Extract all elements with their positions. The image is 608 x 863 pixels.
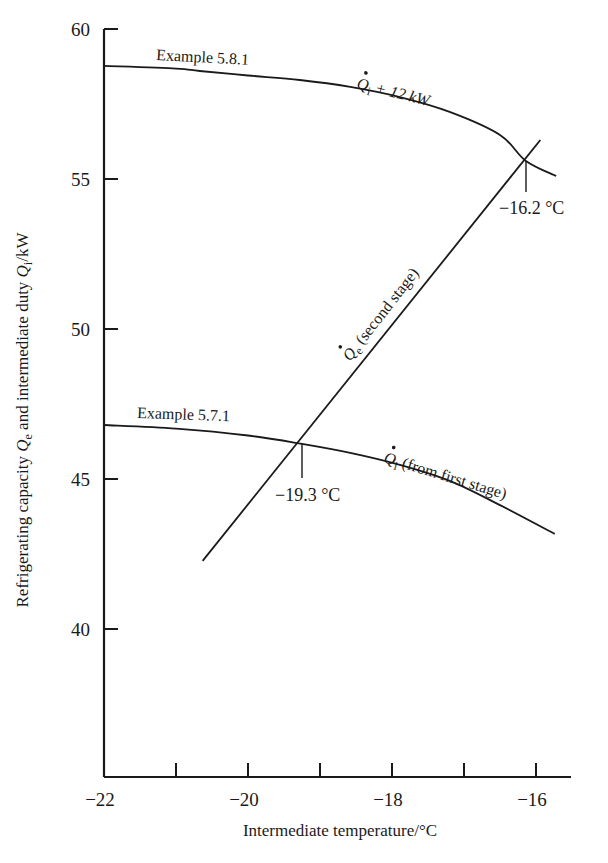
y-ticks (104, 29, 118, 629)
series-upper-curve (104, 66, 556, 176)
example-upper-label: Example 5.8.1 (156, 46, 250, 69)
x-tick-label: −22 (85, 789, 115, 810)
y-tick-labels: 4045505560 (71, 19, 90, 640)
line-text: (second stage) (349, 264, 422, 351)
svg-text:Refrigerating capacity Qe and: Refrigerating capacity Qe and intermedia… (13, 232, 35, 608)
y-tick-label: 45 (71, 469, 90, 490)
lower-curve-text: (from first stage) (396, 453, 509, 503)
upper-curve-text: + 12 kW (370, 78, 433, 109)
example-lower-label: Example 5.7.1 (137, 404, 230, 425)
y-tick-label: 60 (71, 19, 90, 40)
y-title-prefix: Refrigerating capacity (13, 452, 32, 608)
upper-curve-label: Qi + 12 kW (354, 70, 434, 113)
x-axis-title: Intermediate temperature/°C (243, 821, 437, 840)
x-tick-label: −20 (229, 789, 259, 810)
svg-text:Qi + 12 kW: Qi + 12 kW (354, 74, 433, 113)
svg-text:Qi (from first stage): Qi (from first stage) (381, 449, 509, 506)
y-tick-label: 50 (71, 319, 90, 340)
series-second-stage-line (203, 140, 541, 561)
dot-accent-icon (391, 445, 395, 449)
y-title-suffix: /kW (13, 232, 32, 262)
intersection-markers (302, 161, 526, 478)
chart: 4045505560 −22−20−18−16 −16.2 °C −19.3 °… (0, 0, 608, 863)
annotation-lower-intersection: −19.3 °C (275, 485, 340, 505)
x-tick-label: −18 (373, 789, 403, 810)
y-title-mid: and intermediate duty (13, 277, 32, 434)
x-tick-labels: −22−20−18−16 (85, 789, 547, 810)
axes (104, 29, 571, 777)
x-ticks (176, 763, 536, 777)
y-title-sym2: Q (13, 265, 32, 277)
lower-curve-label: Qi (from first stage) (381, 444, 510, 506)
y-axis-title: Refrigerating capacity Qe and intermedia… (13, 232, 35, 608)
x-tick-label: −16 (517, 789, 547, 810)
dot-accent-icon (364, 71, 368, 75)
line-label: Qe (second stage) (335, 261, 425, 366)
annotation-upper-intersection: −16.2 °C (499, 198, 564, 218)
svg-text:Qe (second stage): Qe (second stage) (339, 264, 425, 366)
y-tick-label: 40 (71, 619, 90, 640)
y-tick-label: 55 (71, 169, 90, 190)
y-title-sym1: Q (13, 439, 32, 451)
